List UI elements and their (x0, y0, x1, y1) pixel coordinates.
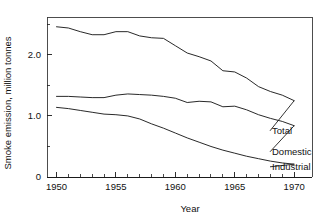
line-chart: 19501955196019651970 01.02.0 TotalDomest… (0, 0, 330, 220)
series-labels: TotalDomesticIndustrial (272, 125, 312, 172)
chart-figure: 19501955196019651970 01.02.0 TotalDomest… (0, 0, 330, 220)
y-tick-label: 1.0 (28, 110, 41, 121)
y-axis-title: Smoke emission, million tonnes (2, 36, 13, 169)
x-tick-label: 1960 (165, 181, 186, 192)
series-label-domestic: Domestic (272, 146, 312, 157)
y-tick-label: 2.0 (28, 49, 41, 60)
series-label-total: Total (272, 125, 292, 136)
series-lines (57, 27, 295, 164)
x-tick-label: 1950 (46, 181, 67, 192)
y-axis-ticks (47, 24, 52, 177)
series-line-industrial (57, 107, 295, 164)
y-axis-tick-labels: 01.02.0 (28, 49, 41, 182)
x-tick-label: 1970 (284, 181, 305, 192)
series-label-industrial: Industrial (272, 161, 311, 172)
x-axis-title: Year (180, 203, 199, 214)
x-tick-label: 1955 (105, 181, 126, 192)
series-line-domestic (57, 94, 295, 126)
y-tick-label: 0 (36, 171, 41, 182)
x-tick-label: 1965 (224, 181, 245, 192)
series-line-total (57, 27, 295, 101)
x-axis-tick-labels: 19501955196019651970 (46, 181, 305, 192)
x-axis-ticks (57, 172, 295, 177)
